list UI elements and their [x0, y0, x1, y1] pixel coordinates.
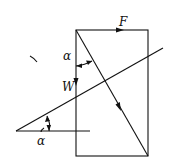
arrow-arc-top-right-icon: [86, 61, 92, 66]
label-alpha-top: α: [63, 49, 71, 63]
arrow-arc-top-left-icon: [76, 64, 82, 69]
label-alpha-bottom: α: [37, 134, 45, 148]
arrow-diagonal-icon: [116, 102, 122, 111]
force-diagram: F W α α: [0, 0, 173, 165]
label-f: F: [118, 15, 128, 29]
arrow-arc-bottom-down-icon: [47, 125, 52, 131]
arrow-arc-bottom-up-icon: [45, 116, 50, 122]
label-w: W: [62, 80, 76, 94]
angle-leader-top: [30, 56, 37, 62]
resultant-diagonal: [76, 30, 148, 156]
incline-line: [16, 48, 163, 131]
